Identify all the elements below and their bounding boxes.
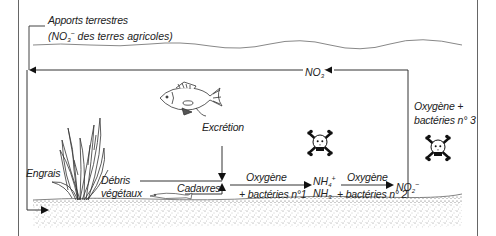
inputs-bracket-line xyxy=(29,26,45,70)
step1-label-top: Oxygène xyxy=(246,171,287,183)
fertilizer-line xyxy=(27,70,42,210)
step2-label-top: Oxygène xyxy=(347,171,388,183)
plant-debris-label-1: Débris xyxy=(101,174,130,186)
nitrate-label: NO3− xyxy=(305,64,328,82)
fish-icon xyxy=(160,82,222,116)
excretion-arrowhead xyxy=(218,173,226,181)
nitrite-label: NO2− xyxy=(396,179,419,197)
inputs-label-line2: (NO3− des terres agricoles) xyxy=(48,28,173,46)
ammonia-label: NH3 xyxy=(313,187,332,203)
fertilizer-label: Engrais xyxy=(26,167,60,179)
skull-crossbones-icon xyxy=(425,135,451,162)
nitrogen-cycle-diagram: Apports terrestres (NO3− des terres agri… xyxy=(0,0,496,236)
inputs-label-line1: Apports terrestres xyxy=(48,14,128,26)
nitrate-return-arrowhead xyxy=(29,67,36,74)
excretion-label: Excrétion xyxy=(202,121,244,133)
skull-crossbones-icon xyxy=(307,130,333,157)
aquatic-plant-icon xyxy=(52,118,108,200)
step3-label-line1: Oxygène + xyxy=(414,100,463,112)
step1-label-bottom: + bactéries n°1 xyxy=(239,188,306,200)
plant-debris-label-2: végétaux xyxy=(101,187,142,199)
carcasses-label: Cadavres xyxy=(177,182,220,194)
step3-label-line2: bactéries n° 3 xyxy=(414,114,476,126)
